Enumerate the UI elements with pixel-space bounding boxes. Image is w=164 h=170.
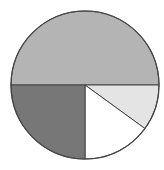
pie-chart-svg (0, 0, 164, 170)
pie-chart (0, 0, 164, 170)
pie-slice (11, 11, 159, 85)
pie-slice (11, 85, 85, 159)
